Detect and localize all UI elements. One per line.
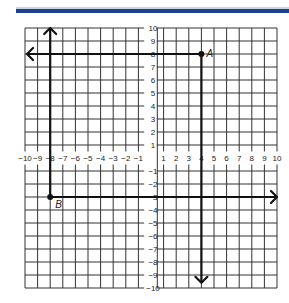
y-tick-label: −7: [148, 245, 158, 254]
y-tick-label: 9: [151, 37, 156, 46]
y-tick-label: −4: [148, 206, 158, 215]
x-tick-label: 8: [250, 154, 255, 163]
x-tick-label: −1: [134, 154, 144, 163]
x-tick-label: −4: [96, 154, 106, 163]
x-tick-label: −6: [71, 154, 81, 163]
x-tick-label: −3: [109, 154, 119, 163]
point-a: [198, 51, 204, 57]
y-tick-label: 7: [151, 63, 156, 72]
y-tick-label: −8: [148, 258, 158, 267]
y-tick-label: −10: [146, 284, 160, 293]
y-tick-label: 4: [151, 102, 156, 111]
point-b: [47, 194, 53, 200]
x-tick-label: −10: [18, 154, 32, 163]
x-tick-label: 9: [262, 154, 267, 163]
x-tick-label: −9: [33, 154, 43, 163]
x-tick-label: 7: [237, 154, 242, 163]
y-tick-label: −5: [148, 219, 158, 228]
x-tick-label: 6: [224, 154, 229, 163]
y-tick-label: −6: [148, 232, 158, 241]
y-tick-label: −1: [148, 167, 158, 176]
point-label-b: B: [55, 199, 62, 210]
x-tick-label: 10: [273, 154, 282, 163]
point-label-a: A: [205, 48, 213, 59]
x-tick-label: 3: [187, 154, 192, 163]
x-tick-label: 5: [212, 154, 217, 163]
y-tick-label: −9: [148, 271, 158, 280]
y-tick-label: −2: [148, 180, 158, 189]
x-tick-label: 2: [174, 154, 179, 163]
y-tick-label: 6: [151, 76, 156, 85]
y-tick-label: 3: [151, 115, 156, 124]
y-tick-label: 10: [149, 24, 158, 33]
x-tick-label: 1: [161, 154, 166, 163]
y-tick-label: 5: [151, 89, 156, 98]
x-tick-label: −2: [121, 154, 131, 163]
x-tick-label: −7: [58, 154, 68, 163]
x-tick-label: −5: [83, 154, 93, 163]
y-tick-label: 2: [151, 128, 156, 137]
y-tick-label: 1: [151, 141, 156, 150]
coordinate-plane: −10−9−8−7−6−5−4−3−2−11234567891010987654…: [0, 0, 289, 303]
